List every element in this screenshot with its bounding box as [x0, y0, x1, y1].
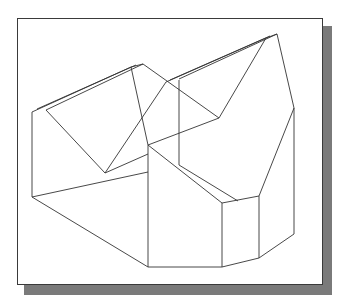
wireframe-edge	[148, 145, 222, 203]
wireframe-edge	[266, 34, 277, 38]
wireframe-edge	[259, 108, 294, 196]
wireframe-edge	[222, 196, 259, 203]
wireframe-drawing	[0, 0, 351, 304]
wireframe-edge	[179, 165, 238, 201]
wireframe-edge	[277, 34, 294, 108]
wireframe-edge	[46, 64, 143, 110]
wireframe-edge	[170, 36, 270, 80]
wireframe-edge	[32, 172, 148, 197]
wireframe-edge	[143, 64, 219, 118]
wireframe-edge	[131, 67, 148, 145]
wireframe-edge	[32, 197, 148, 267]
wireframe-edge	[259, 234, 294, 258]
wireframe-edge	[222, 258, 259, 267]
wireframe-edge	[148, 118, 219, 145]
wireframe-edge	[46, 110, 105, 173]
wireframe-edge	[179, 34, 277, 79]
wireframe-edge	[37, 65, 136, 109]
